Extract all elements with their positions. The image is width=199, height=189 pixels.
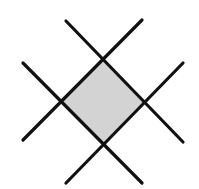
crossing-lines-diagram — [0, 0, 199, 189]
shaded-diamond — [61, 60, 143, 143]
